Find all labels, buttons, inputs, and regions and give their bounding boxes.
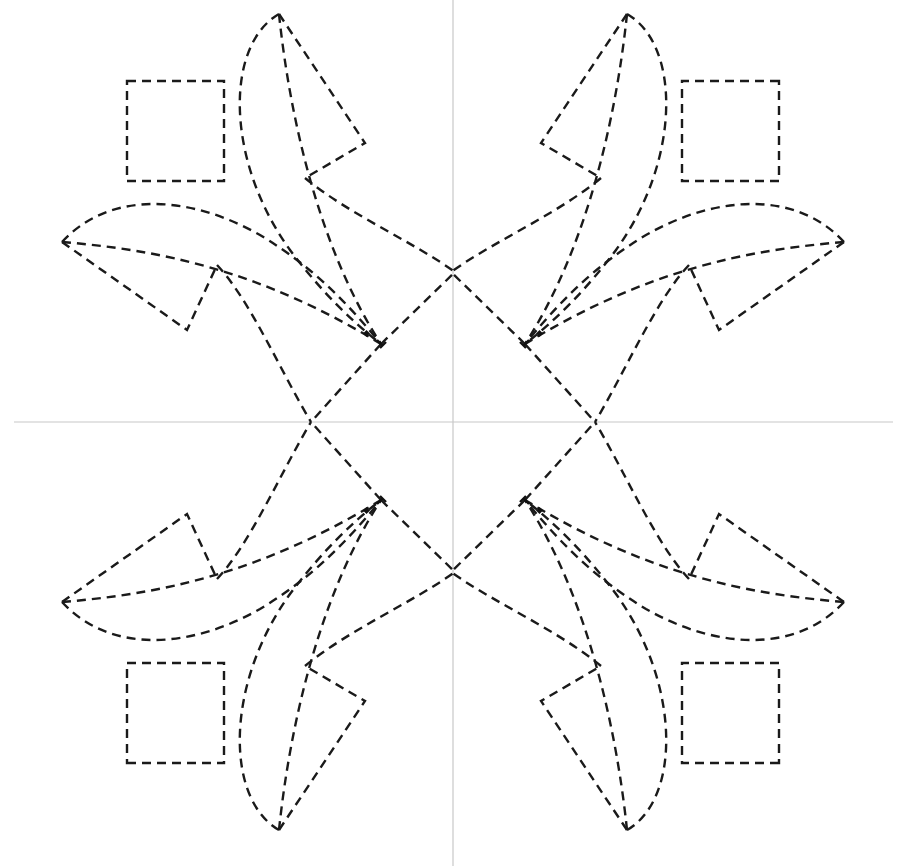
quadrant-top-right xyxy=(451,14,844,422)
quadrant-bottom-left xyxy=(62,422,455,830)
pattern-canvas xyxy=(0,0,898,866)
quadrant-bottom-right xyxy=(451,422,844,830)
quadrant-top-left xyxy=(62,14,455,422)
